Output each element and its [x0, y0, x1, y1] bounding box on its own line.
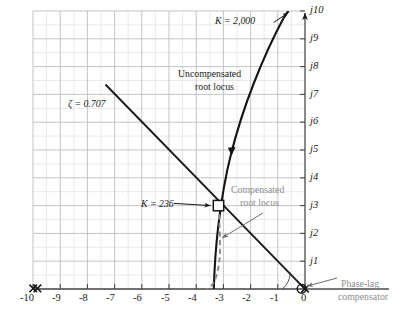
- compensated-leader-arrow: [222, 213, 263, 238]
- phase-lag-leader-arrow: [307, 278, 337, 286]
- phase-lag-compensator-label-line1: Phase-lag: [341, 278, 379, 289]
- y-tick-label: j7: [310, 88, 318, 99]
- compensated-locus-label-line2: root locus: [240, 197, 279, 208]
- compensated-locus-label-line1: Compensated: [231, 184, 284, 195]
- x-tick-label: 0: [301, 292, 306, 303]
- y-tick-label: j4: [310, 171, 318, 182]
- y-tick-label: j9: [310, 32, 318, 43]
- x-tick-label: -1: [270, 292, 279, 303]
- x-tick-label: -2: [242, 292, 251, 303]
- x-tick-label: -3: [215, 292, 224, 303]
- x-tick-label: -6: [133, 292, 142, 303]
- x-tick-label: -5: [161, 292, 170, 303]
- phase-lag-compensator-label-line2: compensator: [338, 291, 388, 302]
- uncompensated-locus-label-line2: root locus: [195, 81, 234, 92]
- y-tick-label: j6: [310, 115, 318, 126]
- uncompensated-locus-label-line1: Uncompensated: [178, 68, 241, 79]
- y-tick-label: j1: [310, 255, 318, 266]
- design-point-square-marker: [213, 200, 223, 210]
- x-tick-label: -9: [52, 292, 61, 303]
- x-tick-label: -10: [20, 292, 34, 303]
- plot-canvas: [0, 0, 395, 315]
- k-236-label: K = 236: [141, 198, 174, 209]
- x-tick-label: -4: [188, 292, 197, 303]
- root-locus-figure: -10 -9 -8 -7 -6 -5 -4 -3 -2 -1 0 j1 j2 j…: [0, 0, 395, 315]
- y-tick-label: j10: [310, 4, 323, 15]
- damping-ratio-label: ζ = 0.707: [68, 98, 106, 109]
- y-tick-label: j2: [310, 227, 318, 238]
- y-tick-label: j8: [310, 60, 318, 71]
- y-tick-label: j5: [310, 143, 318, 154]
- x-tick-label: -8: [79, 292, 88, 303]
- k-2000-label: K = 2,000: [215, 15, 255, 26]
- y-tick-label: j3: [310, 199, 318, 210]
- x-tick-label: -7: [106, 292, 115, 303]
